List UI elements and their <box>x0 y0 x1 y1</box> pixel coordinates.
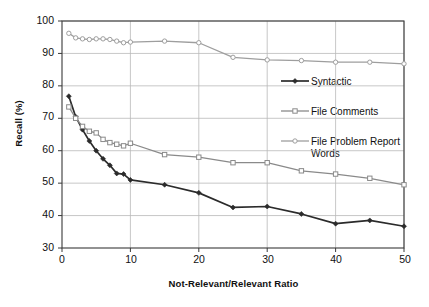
plot-area <box>0 0 429 307</box>
series-file-problem-report-words <box>67 31 407 66</box>
series-syntactic <box>66 94 406 229</box>
legend-glyph-file-comments <box>281 109 309 113</box>
recall-vs-ratio-chart: Recall (%) 100 90 80 70 60 50 40 30 0 10… <box>0 0 429 307</box>
legend-glyphs <box>281 79 309 144</box>
data-series-group <box>66 31 406 229</box>
legend-glyph-file-problem-report-words <box>281 139 309 143</box>
legend-glyph-syntactic <box>281 79 309 84</box>
